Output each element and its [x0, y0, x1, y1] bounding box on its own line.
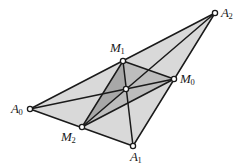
vertex-label-m2: M2 [61, 130, 76, 145]
vertex-node-centroid [123, 86, 128, 91]
vertex-label-a2: A2 [221, 6, 233, 21]
vertex-label-a2-letter: A [221, 5, 229, 20]
vertex-label-m1-subscript: 1 [120, 46, 124, 56]
vertex-label-a1-subscript: 1 [138, 155, 142, 165]
vertex-node-a1 [130, 143, 135, 148]
vertex-label-m1: M1 [110, 41, 125, 56]
vertex-label-m0: M0 [180, 72, 195, 87]
vertex-label-a0-subscript: 0 [19, 107, 23, 117]
vertex-label-a0: A0 [11, 102, 23, 117]
vertex-label-m0-subscript: 0 [190, 77, 194, 87]
vertex-label-a1-letter: A [130, 149, 138, 164]
geometry-canvas [0, 0, 246, 168]
geometry-figure: A0 A1 A2 M0 M1 M2 [0, 0, 246, 168]
vertex-label-a1: A1 [130, 150, 142, 165]
vertex-label-m2-subscript: 2 [71, 135, 75, 145]
vertex-node-m2 [79, 124, 84, 129]
vertex-node-a2 [212, 10, 217, 15]
vertex-node-m1 [120, 58, 125, 63]
vertex-node-m0 [171, 76, 176, 81]
vertex-label-a0-letter: A [11, 101, 19, 116]
vertex-node-a0 [27, 106, 32, 111]
vertex-label-a2-subscript: 2 [229, 11, 233, 21]
